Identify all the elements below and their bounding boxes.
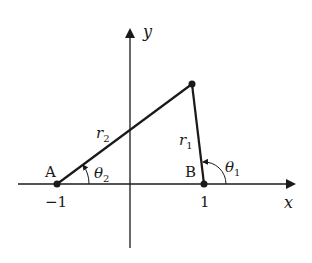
geometry-diagram: y x −1 1 A B r2 r1 θ2 θ1 (0, 0, 312, 263)
point-label-A: A (44, 163, 56, 181)
point-B (201, 181, 208, 188)
y-axis-label: y (142, 22, 153, 41)
point-A (54, 181, 61, 188)
point-label-B: B (185, 163, 196, 181)
x-axis-label: x (284, 193, 293, 212)
angle-label-theta1: θ1 (225, 158, 240, 178)
segment-label-r2: r2 (96, 124, 110, 144)
angle-arc-theta1 (203, 162, 226, 184)
tick-label-neg-1: −1 (45, 193, 67, 211)
angle-label-theta2: θ2 (94, 164, 109, 184)
point-top-vertex (189, 81, 196, 88)
angle-arc-theta2 (83, 165, 89, 184)
segment-r2 (57, 84, 192, 184)
segment-label-r1: r1 (179, 131, 193, 151)
tick-label-pos-1: 1 (200, 193, 210, 211)
